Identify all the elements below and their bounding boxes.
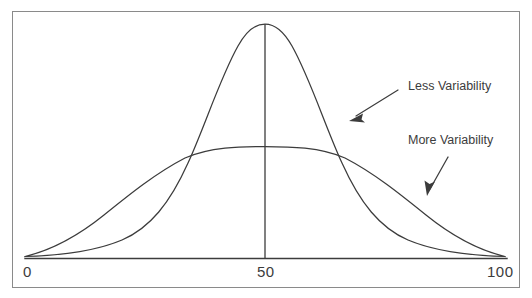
x-axis-tick-label-0: 0 bbox=[23, 264, 32, 279]
figure-container: 0 50 100 Less Variability More Variabili… bbox=[0, 0, 532, 298]
x-axis-tick-label-100: 100 bbox=[487, 264, 514, 279]
annotation-label-more-variability: More Variability bbox=[408, 134, 493, 147]
annotation-arrow-more-variability bbox=[425, 157, 449, 196]
annotation-arrow-less-variability bbox=[349, 90, 398, 123]
annotation-label-less-variability: Less Variability bbox=[408, 80, 491, 93]
distribution-plot bbox=[0, 0, 532, 298]
x-axis-tick-label-50: 50 bbox=[257, 264, 275, 279]
